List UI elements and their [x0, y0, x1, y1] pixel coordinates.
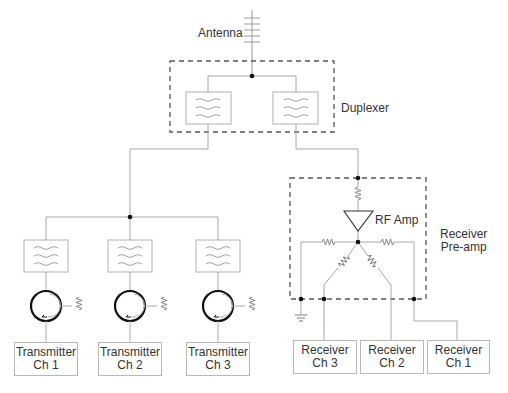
channel-label: Ch 1 — [15, 359, 77, 372]
terminator-resistor-icon — [76, 297, 82, 310]
tx-chain-2 — [108, 240, 167, 342]
channel-label: Ch 2 — [99, 359, 161, 372]
duplexer-filter-rx-icon — [273, 92, 318, 124]
preamp-wiring — [301, 178, 457, 340]
input-resistor-icon — [355, 187, 361, 200]
resistor-icon — [322, 239, 335, 245]
duplexer-label: Duplexer — [341, 102, 389, 115]
channel-label: Ch 3 — [187, 359, 249, 372]
node-dot — [128, 215, 133, 220]
transmitter-ch3-box: Transmitter Ch 3 — [186, 342, 250, 376]
tx-chain-3 — [196, 240, 255, 342]
receiver-ch2-box: Receiver Ch 2 — [360, 340, 424, 374]
preamp-label-line2: Pre-amp — [440, 241, 487, 254]
resistor-icon — [338, 254, 351, 268]
terminator-resistor-icon — [249, 297, 255, 310]
channel-label: Ch 3 — [294, 357, 356, 370]
ground-icon — [295, 315, 307, 321]
tx-filter-icon — [24, 240, 68, 272]
antenna-label: Antenna — [198, 27, 243, 40]
transmit-bus — [46, 217, 218, 240]
transmitter-ch1-box: Transmitter Ch 1 — [14, 342, 78, 376]
tx-filter-icon — [108, 240, 152, 272]
antenna-icon — [244, 10, 260, 76]
transmitter-ch2-box: Transmitter Ch 2 — [98, 342, 162, 376]
receiver-ch1-box: Receiver Ch 1 — [427, 340, 490, 374]
duplexer-filter-tx-icon — [186, 92, 231, 124]
receiver-ch3-box: Receiver Ch 3 — [293, 340, 357, 374]
tx-filter-icon — [196, 240, 240, 272]
channel-label: Ch 2 — [361, 357, 423, 370]
resistor-icon — [381, 239, 394, 245]
terminator-resistor-icon — [161, 297, 167, 310]
rf-amp-label: RF Amp — [375, 214, 418, 227]
tx-chain-1 — [24, 240, 82, 342]
rf-amp-triangle-icon — [344, 211, 373, 231]
node-dot — [250, 74, 255, 79]
diagram-canvas — [0, 0, 508, 393]
resistor-icon — [366, 254, 379, 268]
preamp-label: Receiver Pre-amp — [440, 228, 487, 254]
channel-label: Ch 1 — [428, 357, 489, 370]
duplexer-wiring — [130, 76, 358, 217]
